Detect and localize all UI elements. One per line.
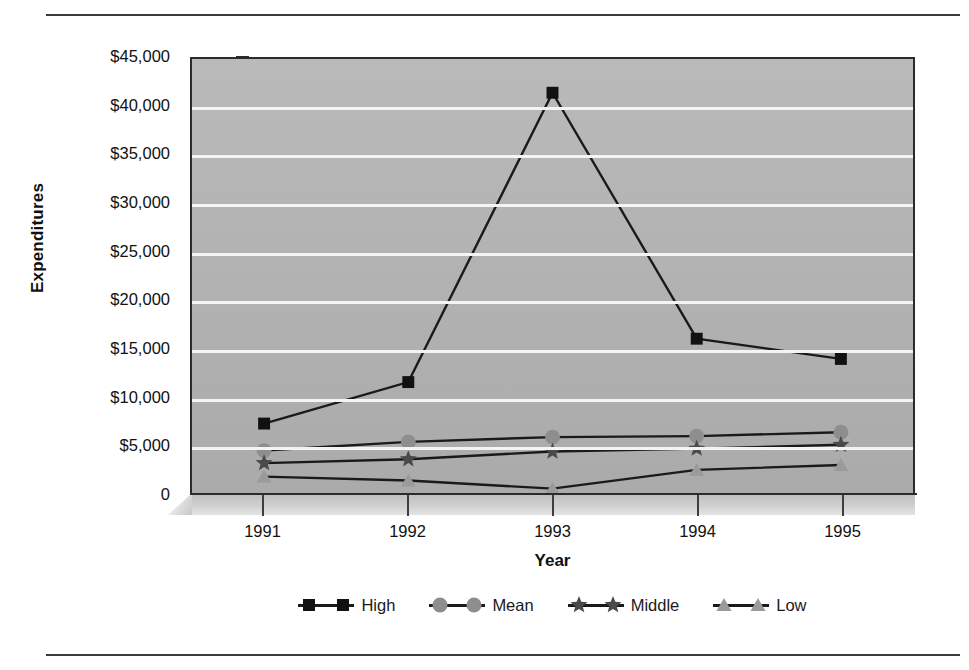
data-point-marker: [751, 598, 766, 611]
gridline: [192, 447, 913, 450]
legend-marker-triangle-icon: [713, 596, 769, 614]
data-point-marker: [835, 353, 847, 365]
gridline: [192, 155, 913, 158]
legend-item-high[interactable]: High: [298, 596, 395, 615]
series-high: [258, 87, 847, 430]
y-axis-tick-label: $45,000: [60, 48, 170, 65]
data-point-marker: [337, 599, 349, 611]
legend-marker-svg: [568, 596, 624, 614]
figure-container: Expenditures 0$5,000$10,000$15,000$20,00…: [0, 0, 969, 670]
gridline: [192, 107, 913, 110]
data-point-marker: [717, 598, 732, 611]
x-axis-tick-mark: [407, 495, 409, 516]
x-axis-tick-label: 1991: [218, 522, 308, 541]
gridline: [192, 350, 913, 353]
legend-item-middle[interactable]: Middle: [568, 596, 680, 615]
x-axis-tick-mark: [697, 495, 699, 516]
x-axis-tick-label: 1994: [653, 522, 743, 541]
gridline: [192, 301, 913, 304]
y-axis-tick-label: $5,000: [60, 437, 170, 454]
y-axis-tick-labels: 0$5,000$10,000$15,000$20,000$25,000$30,0…: [60, 0, 170, 670]
data-point-marker: [545, 430, 560, 445]
data-point-marker: [691, 333, 703, 345]
y-axis-tick-label: 0: [60, 486, 170, 503]
series-low: [257, 458, 849, 495]
x-axis-tick-label: 1992: [363, 522, 453, 541]
data-point-marker: [258, 418, 270, 430]
legend-label: High: [361, 596, 395, 615]
y-axis-tick-label: $40,000: [60, 97, 170, 114]
data-point-marker: [547, 87, 559, 99]
y-axis-tick-label: $20,000: [60, 291, 170, 308]
data-point-marker: [544, 443, 561, 459]
legend-marker-svg: [298, 596, 354, 614]
x-axis-line: [190, 493, 917, 495]
bottom-divider-rule: [46, 654, 960, 656]
legend-marker-star-icon: [568, 596, 624, 614]
data-point-marker: [400, 450, 417, 466]
y-axis-tick-label: $15,000: [60, 340, 170, 357]
legend-marker-square-icon: [298, 596, 354, 614]
data-point-marker: [467, 598, 482, 613]
gridline: [192, 399, 913, 402]
data-point-marker: [402, 376, 414, 388]
data-point-marker: [256, 454, 273, 470]
plot-area: [190, 57, 915, 495]
x-axis-tick-label: 1995: [798, 522, 888, 541]
y-axis-tick-label: $30,000: [60, 194, 170, 211]
x-axis-tick-label: 1993: [508, 522, 598, 541]
x-axis-tick-mark: [552, 495, 554, 516]
x-axis-tick-mark: [262, 495, 264, 516]
top-divider-rule: [46, 14, 960, 16]
x-axis-tick-mark: [842, 495, 844, 516]
legend-label: Low: [776, 596, 806, 615]
legend-item-mean[interactable]: Mean: [429, 596, 533, 615]
series-lines: [192, 59, 913, 493]
data-point-marker: [303, 599, 315, 611]
gridline: [192, 253, 913, 256]
y-axis-tick-label: $35,000: [60, 145, 170, 162]
series-line: [264, 93, 841, 424]
chart-floor-bevel: [168, 493, 192, 515]
data-point-marker: [433, 598, 448, 613]
legend-item-low[interactable]: Low: [713, 596, 806, 615]
legend-label: Middle: [631, 596, 680, 615]
chart-legend: HighMeanMiddleLow: [190, 588, 915, 622]
x-axis-title: Year: [190, 551, 915, 571]
data-point-marker: [570, 596, 587, 612]
legend-label: Mean: [492, 596, 533, 615]
y-axis-title: Expenditures: [28, 138, 48, 338]
legend-marker-svg: [713, 596, 769, 614]
legend-marker-circle-icon: [429, 596, 485, 614]
gridline: [192, 204, 913, 207]
y-axis-tick-label: $10,000: [60, 389, 170, 406]
data-point-marker: [604, 596, 621, 612]
legend-marker-svg: [429, 596, 485, 614]
y-axis-tick-label: $25,000: [60, 243, 170, 260]
